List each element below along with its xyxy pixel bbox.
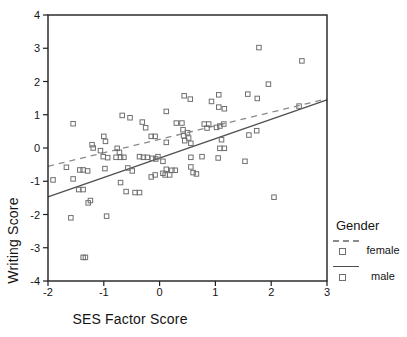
legend-label-female: female <box>360 244 406 256</box>
data-point-marker <box>254 128 259 133</box>
data-point-marker <box>222 107 227 112</box>
legend-title: Gender <box>336 218 379 233</box>
data-point-marker <box>272 195 277 200</box>
female-marker-icon <box>339 248 346 255</box>
y-tick-label: -3 <box>30 242 40 254</box>
data-point-marker <box>103 139 108 144</box>
data-point-marker <box>81 187 86 192</box>
data-point-marker <box>133 190 138 195</box>
data-point-marker <box>98 148 103 153</box>
data-point-marker <box>51 178 56 183</box>
data-point-marker <box>103 166 108 171</box>
data-point-marker <box>209 99 214 104</box>
data-point-marker <box>218 146 223 151</box>
data-point-marker <box>114 155 119 160</box>
data-point-marker <box>300 59 305 64</box>
data-point-marker <box>76 187 81 192</box>
x-tick-label: 0 <box>157 286 163 298</box>
female-fit-line <box>48 99 327 166</box>
data-point-marker <box>143 125 148 130</box>
data-point-marker <box>120 113 125 118</box>
y-tick-label: -2 <box>30 209 40 221</box>
x-axis-title: SES Factor Score <box>58 311 202 327</box>
x-tick-label: -2 <box>43 286 53 298</box>
x-tick-label: -1 <box>99 286 109 298</box>
data-point-marker <box>130 169 135 174</box>
male-fit-line <box>48 100 327 197</box>
data-point-marker <box>189 141 194 146</box>
x-tick-label: 2 <box>268 286 274 298</box>
y-tick-label: 4 <box>34 9 40 21</box>
scatter-chart: -2-10123-4-3-2-101234 Writing Score SES … <box>0 0 407 337</box>
y-tick-label: -4 <box>30 275 40 287</box>
data-point-marker <box>174 121 179 126</box>
legend-label-male: male <box>360 270 406 282</box>
data-point-marker <box>85 169 90 174</box>
female-line-sample <box>333 240 359 242</box>
data-point-marker <box>164 140 169 145</box>
data-point-marker <box>246 92 251 97</box>
legend-entry-male: male <box>330 264 407 288</box>
data-point-marker <box>167 173 172 178</box>
data-point-marker <box>247 133 252 138</box>
data-point-marker <box>222 146 227 151</box>
data-point-marker <box>105 155 110 160</box>
data-point-marker <box>137 190 142 195</box>
legend-entry-female: female <box>330 238 407 262</box>
male-marker-icon <box>339 274 346 281</box>
data-point-marker <box>71 177 76 182</box>
data-point-marker <box>216 105 221 110</box>
data-point-marker <box>189 155 194 160</box>
x-tick-label: 1 <box>212 286 218 298</box>
data-point-marker <box>182 94 187 99</box>
data-point-marker <box>181 127 186 131</box>
data-point-marker <box>180 121 185 126</box>
data-point-marker <box>257 45 262 50</box>
y-tick-label: -1 <box>30 175 40 187</box>
data-point-marker <box>255 96 260 101</box>
data-point-marker <box>102 134 107 139</box>
y-axis-title: Writing Score <box>5 181 22 301</box>
data-point-marker <box>266 82 271 87</box>
y-tick-label: 0 <box>34 142 40 154</box>
data-point-marker <box>161 159 166 164</box>
data-point-marker <box>243 159 248 164</box>
y-tick-label: 2 <box>34 76 40 88</box>
y-tick-label: 3 <box>34 42 40 54</box>
data-point-marker <box>124 189 128 194</box>
data-point-marker <box>200 154 205 159</box>
data-point-marker <box>216 156 221 161</box>
male-line-sample <box>333 266 359 267</box>
data-point-marker <box>69 216 74 221</box>
data-point-marker <box>64 165 69 170</box>
data-point-marker <box>128 115 133 120</box>
data-point-marker <box>188 97 193 102</box>
data-point-marker <box>118 180 123 185</box>
data-point-marker <box>101 154 106 159</box>
legend: Gender female male <box>330 218 407 294</box>
data-point-marker <box>104 214 109 219</box>
data-point-marker <box>140 120 145 125</box>
data-point-marker <box>164 109 169 114</box>
data-point-marker <box>189 165 194 170</box>
data-point-marker <box>219 137 224 142</box>
y-tick-label: 1 <box>34 109 40 121</box>
data-point-marker <box>216 93 221 98</box>
data-point-marker <box>71 121 76 126</box>
